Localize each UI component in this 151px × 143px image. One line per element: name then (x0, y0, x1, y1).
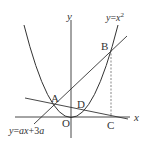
point-b-label: B (101, 41, 108, 52)
figure-graphics (0, 0, 151, 143)
line-ab (34, 36, 127, 124)
point-d-label: D (77, 99, 85, 110)
coordinate-figure: y x O A B C D y=x2 y=ax+3a (0, 0, 151, 143)
point-a-label: A (51, 93, 59, 104)
parabola-equation-label: y=x2 (106, 12, 124, 23)
point-c-label: C (107, 120, 114, 131)
eq-bot-plus: +3 (29, 125, 40, 136)
x-axis-label: x (134, 112, 139, 123)
origin-label: O (62, 118, 70, 129)
eq-bot-a2: a (39, 125, 44, 136)
line-equation-label: y=ax+3a (9, 126, 44, 136)
y-axis-label: y (67, 11, 72, 22)
eq-top-sup: 2 (121, 11, 125, 19)
